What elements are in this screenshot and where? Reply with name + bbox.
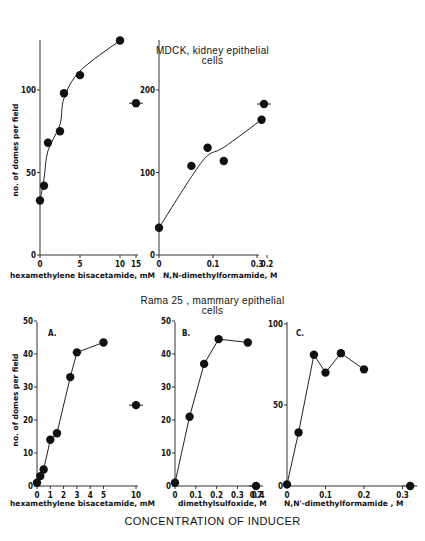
y-tick-label: 0 bbox=[150, 251, 155, 260]
y-tick-label: 0 bbox=[28, 482, 33, 491]
y-axis-label: no. of domes per field bbox=[11, 104, 20, 197]
data-point bbox=[73, 348, 81, 356]
y-tick-label: 30 bbox=[23, 383, 33, 392]
y-tick-label: 0 bbox=[278, 482, 283, 491]
y-axis-label: no. of domes per field bbox=[11, 354, 20, 447]
fit-curve bbox=[40, 41, 120, 201]
panel-label: C. bbox=[296, 329, 304, 338]
data-point bbox=[171, 479, 179, 487]
y-tick-label: 40 bbox=[23, 350, 33, 359]
fit-curve bbox=[37, 342, 104, 482]
data-point bbox=[214, 335, 222, 343]
y-tick-label: 50 bbox=[26, 169, 36, 178]
data-point bbox=[220, 157, 228, 165]
chart-rama-hmba: 0102030405001234510hexamethylene bisacet… bbox=[10, 317, 155, 508]
x-tick-label: 0.3 bbox=[251, 260, 264, 269]
y-tick-label: 100 bbox=[21, 86, 36, 95]
x-axis-label: N,N-dimethylformamide, M bbox=[163, 271, 278, 280]
x-tick-label: 5 bbox=[77, 260, 82, 269]
data-point bbox=[116, 36, 124, 44]
y-tick-label: 30 bbox=[161, 383, 171, 392]
data-point bbox=[44, 139, 52, 147]
fit-curve bbox=[159, 120, 262, 228]
outlier-point bbox=[132, 401, 140, 409]
x-tick-label: 0.1 bbox=[207, 260, 220, 269]
data-point bbox=[185, 413, 193, 421]
y-tick-label: 20 bbox=[23, 416, 33, 425]
data-point bbox=[337, 349, 345, 357]
data-point bbox=[40, 182, 48, 190]
data-point bbox=[321, 368, 329, 376]
outlier-point bbox=[252, 482, 260, 490]
figure-canvas: 050100051015hexamethylene bisacetamide, … bbox=[0, 0, 425, 541]
data-point bbox=[257, 116, 265, 124]
outlier-point bbox=[260, 100, 268, 108]
data-point bbox=[76, 71, 84, 79]
data-point bbox=[200, 360, 208, 368]
y-tick-label: 10 bbox=[23, 449, 33, 458]
y-tick-label: 200 bbox=[140, 86, 155, 95]
data-point bbox=[187, 162, 195, 170]
x-tick-label: 0 bbox=[156, 260, 161, 269]
data-point bbox=[99, 338, 107, 346]
chart-mdck-hmba: 050100051015hexamethylene bisacetamide, … bbox=[10, 36, 155, 280]
data-point bbox=[203, 144, 211, 152]
y-tick-label: 0 bbox=[31, 251, 36, 260]
data-point bbox=[294, 428, 302, 436]
data-point bbox=[155, 224, 163, 232]
outlier-point bbox=[132, 99, 140, 107]
data-point bbox=[60, 89, 68, 97]
y-tick-label: 20 bbox=[161, 416, 171, 425]
data-point bbox=[66, 373, 74, 381]
data-point bbox=[283, 480, 291, 488]
panel-label: A. bbox=[48, 329, 56, 338]
x-tick-label: 15 bbox=[131, 260, 141, 269]
y-tick-label: 40 bbox=[161, 350, 171, 359]
y-tick-label: 50 bbox=[273, 401, 283, 410]
x-axis-label: N,N'-dimethylformamide , M bbox=[284, 499, 403, 508]
outlier-point bbox=[406, 482, 414, 490]
x-axis-label: hexamethylene bisacetamide, mM bbox=[10, 271, 155, 280]
y-tick-label: 100 bbox=[140, 169, 155, 178]
x-tick-label: 0 bbox=[172, 491, 177, 500]
y-tick-label: 0 bbox=[166, 482, 171, 491]
data-point bbox=[53, 429, 61, 437]
chart-rama-dmf: 05010000.10.20.3N,N'-dimethylformamide ,… bbox=[268, 320, 417, 508]
data-point bbox=[310, 351, 318, 359]
y-tick-label: 10 bbox=[161, 449, 171, 458]
x-tick-label: 10 bbox=[115, 260, 125, 269]
x-tick-label: 0 bbox=[37, 260, 42, 269]
data-point bbox=[360, 365, 368, 373]
fit-curve bbox=[175, 339, 248, 483]
data-point bbox=[36, 196, 44, 204]
y-tick-label: 50 bbox=[23, 317, 33, 326]
data-point bbox=[46, 436, 54, 444]
data-point bbox=[244, 338, 252, 346]
data-point bbox=[56, 127, 64, 135]
data-point bbox=[39, 465, 47, 473]
x-axis-label: hexamethylene bisacetamide, mM bbox=[10, 499, 155, 508]
y-tick-label: 50 bbox=[161, 317, 171, 326]
panel-label: B. bbox=[182, 329, 190, 338]
chart-mdck-dmf: 010020000.10.20.3N,N-dimethylformamide, … bbox=[140, 40, 278, 280]
chart-rama-dmso: 0102030405000.10.20.30.40.7dimethylsulfo… bbox=[161, 317, 267, 508]
y-tick-label: 100 bbox=[268, 320, 283, 329]
x-axis-label: dimethylsulfoxide, M bbox=[178, 499, 267, 508]
